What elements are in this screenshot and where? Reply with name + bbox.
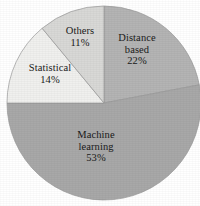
pie-chart-figure: Distance based 22% Machine learning 53% … [0, 0, 200, 206]
pie-slice-group [7, 6, 200, 200]
pie-chart-canvas [0, 0, 200, 206]
